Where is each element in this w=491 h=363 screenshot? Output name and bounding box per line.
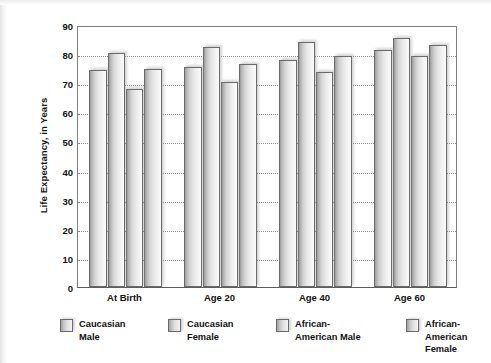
bar-group: [363, 27, 458, 287]
x-tick-at-birth: At Birth: [107, 292, 142, 303]
bar-group: [268, 27, 363, 287]
bar[interactable]: [429, 45, 447, 287]
legend-label: Caucasian Female: [187, 318, 234, 343]
plot-area: [77, 26, 457, 288]
legend-item[interactable]: Caucasian Female: [168, 318, 234, 343]
bar[interactable]: [203, 47, 221, 287]
bar[interactable]: [279, 60, 297, 287]
legend-item[interactable]: African- American Male: [276, 318, 361, 343]
bar-chart: Life Expectancy, in Years 90807060504030…: [0, 0, 491, 363]
y-axis-tick-labels: 9080706050403020100: [33, 26, 73, 288]
bar[interactable]: [126, 89, 144, 287]
y-tick-0: 0: [39, 283, 73, 294]
x-tick-age-60: Age 60: [394, 292, 425, 303]
y-tick-50: 50: [39, 137, 73, 148]
bar[interactable]: [334, 56, 352, 287]
y-tick-70: 70: [39, 79, 73, 90]
y-tick-40: 40: [39, 166, 73, 177]
bar[interactable]: [239, 64, 257, 287]
bar[interactable]: [411, 56, 429, 287]
bar[interactable]: [144, 69, 162, 287]
x-axis-tick-labels: At BirthAge 20Age 40Age 60: [77, 292, 457, 308]
bar[interactable]: [316, 72, 334, 287]
bar-group: [78, 27, 173, 287]
bar-group: [173, 27, 268, 287]
y-tick-10: 10: [39, 253, 73, 264]
bar[interactable]: [374, 50, 392, 287]
y-tick-20: 20: [39, 224, 73, 235]
legend-swatch-icon: [60, 319, 73, 332]
bar[interactable]: [221, 82, 239, 287]
legend-swatch-icon: [276, 319, 289, 332]
y-tick-80: 80: [39, 50, 73, 61]
bar[interactable]: [108, 53, 126, 287]
x-tick-age-40: Age 40: [299, 292, 330, 303]
bar[interactable]: [184, 67, 202, 287]
legend-label: Caucasian Male: [79, 318, 126, 343]
bars-layer: [78, 27, 456, 287]
bar[interactable]: [89, 70, 107, 287]
legend-item[interactable]: African- American Female: [406, 318, 485, 356]
legend-swatch-icon: [406, 319, 419, 332]
chart-legend: Caucasian MaleCaucasian FemaleAfrican- A…: [60, 318, 485, 358]
y-tick-90: 90: [39, 21, 73, 32]
y-tick-30: 30: [39, 195, 73, 206]
y-tick-60: 60: [39, 108, 73, 119]
bar[interactable]: [393, 38, 411, 287]
bar[interactable]: [298, 42, 316, 287]
legend-item[interactable]: Caucasian Male: [60, 318, 126, 343]
legend-label: African- American Female: [425, 318, 485, 356]
x-tick-age-20: Age 20: [204, 292, 235, 303]
legend-swatch-icon: [168, 319, 181, 332]
legend-label: African- American Male: [295, 318, 361, 343]
